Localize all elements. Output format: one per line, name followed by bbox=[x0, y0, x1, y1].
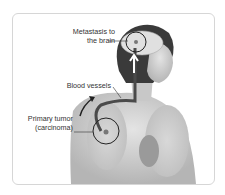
blood-vessels-text: Blood vessels bbox=[67, 81, 111, 90]
primary-tumor-label: Primary tumor (carcinoma) bbox=[17, 115, 73, 132]
primary-tumor-line2: (carcinoma) bbox=[35, 123, 73, 132]
blood-vessels-label: Blood vessels bbox=[59, 82, 111, 91]
metastasis-line2: the brain bbox=[87, 36, 115, 45]
illustration-frame: Metastasis to the brain Blood vessels Pr… bbox=[12, 13, 215, 185]
heart-icon bbox=[139, 135, 159, 167]
left-lung bbox=[87, 102, 127, 170]
metastasis-label: Metastasis to the brain bbox=[53, 28, 115, 45]
